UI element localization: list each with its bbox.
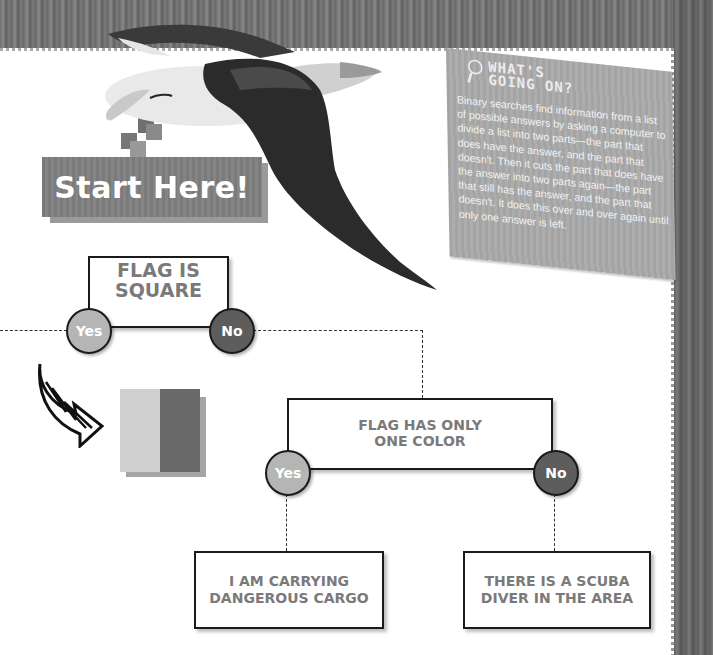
q2-line2: ONE COLOR xyxy=(358,433,482,449)
answer-dangerous-cargo: I AM CARRYINGDANGEROUS CARGO xyxy=(194,551,384,629)
q1-no-label: No xyxy=(221,323,242,339)
flag-right-stripe xyxy=(160,389,200,472)
q2-yes-node: Yes xyxy=(265,450,311,496)
flag-left-stripe xyxy=(120,389,160,472)
a2-line1: THERE IS A SCUBA xyxy=(481,573,633,590)
magnifier-icon xyxy=(466,58,485,90)
whats-going-on-card: WHAT'S GOING ON? Binary searches find in… xyxy=(446,48,676,280)
question-flag-is-square: FLAG ISSQUARE xyxy=(88,256,229,328)
connector-line xyxy=(0,330,67,331)
connector-line xyxy=(554,494,555,551)
q2-line1: FLAG HAS ONLY xyxy=(358,417,482,433)
wood-background-top xyxy=(0,0,713,50)
q2-no-label: No xyxy=(545,465,566,481)
wood-background-right xyxy=(673,0,713,655)
card-title: WHAT'S GOING ON? xyxy=(488,60,573,95)
q1-yes-label: Yes xyxy=(76,323,103,339)
connector-line xyxy=(253,330,423,331)
arrow-icon xyxy=(36,362,110,448)
start-here-label: Start Here! xyxy=(54,170,250,205)
a2-line2: DIVER IN THE AREA xyxy=(481,590,633,607)
question-flag-has-only-one-color: FLAG HAS ONLYONE COLOR xyxy=(287,398,553,470)
connector-line xyxy=(422,330,423,398)
q2-yes-label: Yes xyxy=(275,465,302,481)
pixel-decoration xyxy=(130,141,146,157)
connector-line xyxy=(286,494,287,551)
q1-line2: SQUARE xyxy=(115,280,202,300)
q1-line1: FLAG IS xyxy=(115,260,202,280)
page-edge xyxy=(0,48,673,51)
a1-line1: I AM CARRYING xyxy=(209,573,369,590)
answer-scuba-diver: THERE IS A SCUBADIVER IN THE AREA xyxy=(463,551,651,629)
a1-line2: DANGEROUS CARGO xyxy=(209,590,369,607)
q1-yes-node: Yes xyxy=(66,308,112,354)
pixel-decoration xyxy=(146,124,162,140)
start-here-banner: Start Here! xyxy=(42,157,262,217)
q1-no-node: No xyxy=(209,308,255,354)
card-body: Binary searches find information from a … xyxy=(457,92,669,242)
q2-no-node: No xyxy=(533,450,579,496)
two-color-flag xyxy=(120,389,200,472)
